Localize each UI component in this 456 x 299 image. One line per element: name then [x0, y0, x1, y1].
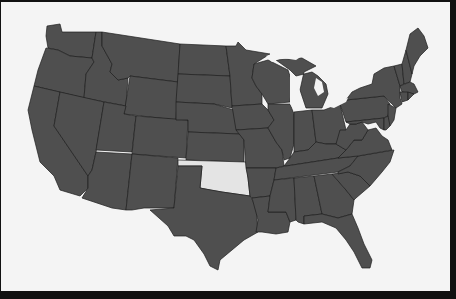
- map-frame: Oklahoma: [1, 2, 450, 291]
- state-north-dakota[interactable]: [178, 44, 230, 76]
- state-colorado[interactable]: [132, 116, 188, 158]
- us-map: [1, 2, 450, 291]
- state-montana[interactable]: [102, 32, 180, 82]
- state-wyoming[interactable]: [124, 76, 178, 120]
- state-new-mexico[interactable]: [126, 154, 178, 210]
- lake-michigan: [290, 74, 300, 110]
- state-florida[interactable]: [304, 214, 372, 268]
- state-kansas[interactable]: [186, 132, 244, 162]
